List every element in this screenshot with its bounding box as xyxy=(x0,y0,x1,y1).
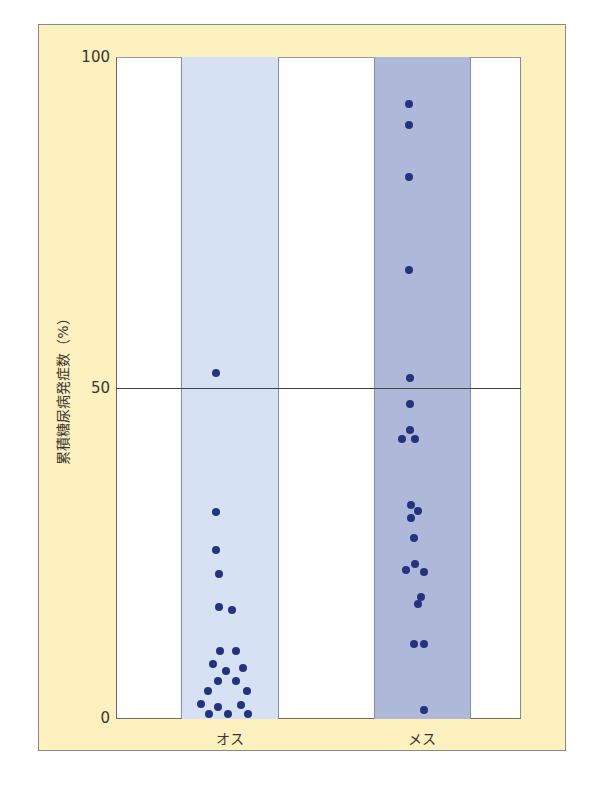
female-data-point xyxy=(405,100,413,108)
male-data-point xyxy=(215,570,223,578)
female-data-point xyxy=(414,600,422,608)
y-tick-100: 100 xyxy=(50,48,110,66)
male-data-point xyxy=(232,647,240,655)
male-data-point xyxy=(216,647,224,655)
female-data-point xyxy=(406,400,414,408)
x-label-female: メス xyxy=(382,728,462,748)
female-data-point xyxy=(405,173,413,181)
male-data-point xyxy=(212,508,220,516)
male-data-point xyxy=(239,664,247,672)
x-label-male: オス xyxy=(190,728,270,748)
y-tick-0: 0 xyxy=(50,709,110,727)
male-data-point xyxy=(197,700,205,708)
male-data-point xyxy=(244,710,252,718)
female-data-point xyxy=(411,435,419,443)
female-data-point xyxy=(406,426,414,434)
male-data-point xyxy=(232,677,240,685)
male-data-point xyxy=(209,660,217,668)
male-data-point xyxy=(205,710,213,718)
female-data-point xyxy=(406,374,414,382)
female-data-point xyxy=(402,566,410,574)
y-axis-label: 累積糖尿病発症数（%） xyxy=(52,311,72,464)
male-data-point xyxy=(222,667,230,675)
female-data-point xyxy=(420,568,428,576)
male-data-point xyxy=(224,710,232,718)
female-data-point xyxy=(398,435,406,443)
gridline-50 xyxy=(116,388,521,389)
female-data-point xyxy=(420,706,428,714)
female-data-point xyxy=(407,514,415,522)
